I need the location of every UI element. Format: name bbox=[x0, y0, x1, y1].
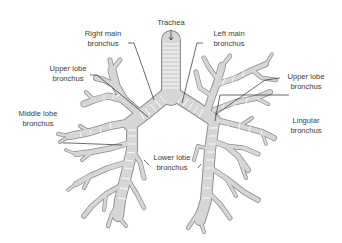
label-lower-line2: bronchus bbox=[156, 163, 187, 172]
label-left-upper-line2: bronchus bbox=[290, 82, 321, 91]
label-lingular-line2: bronchus bbox=[290, 126, 321, 135]
label-lower-line1: Lower lobe bbox=[153, 153, 190, 162]
label-left-main-line1: Left main bbox=[213, 29, 244, 38]
label-right-main-line2: bronchus bbox=[87, 39, 118, 48]
label-right-upper-line1: Upper lobe bbox=[49, 64, 86, 73]
label-left-upper-line1: Upper lobe bbox=[287, 72, 324, 81]
leader-right-main bbox=[128, 43, 154, 100]
leader-middle bbox=[63, 143, 122, 145]
label-trachea: Trachea bbox=[157, 18, 185, 27]
label-middle-line2: bronchus bbox=[22, 119, 53, 128]
bronchial-tree-diagram: Trachea Right main bronchus Left main br… bbox=[0, 0, 342, 243]
label-middle-line1: Middle lobe bbox=[19, 109, 58, 118]
label-right-main-line1: Right main bbox=[85, 29, 121, 38]
label-left-main-line2: bronchus bbox=[213, 39, 244, 48]
airway-fill-layer bbox=[58, 40, 276, 232]
leader-lower-right bbox=[198, 164, 201, 168]
leader-lower-left bbox=[144, 160, 149, 165]
label-lingular-line1: Lingular bbox=[292, 116, 319, 125]
label-right-upper-line2: bronchus bbox=[52, 74, 83, 83]
